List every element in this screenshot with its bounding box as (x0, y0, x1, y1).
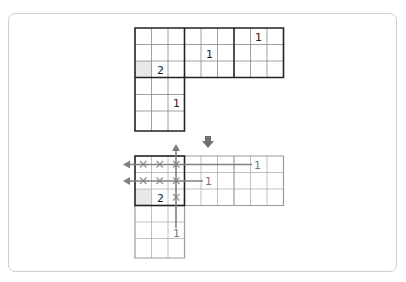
puzzle-diagram: 2 1 1 1 (0, 0, 406, 282)
bottom-grid-thin-lines (135, 156, 284, 258)
down-arrow-icon (202, 136, 214, 148)
left-arrow-icon (123, 161, 252, 169)
bottom-grid-faded-region-borders (135, 156, 284, 258)
clue-1: 1 (255, 31, 262, 44)
top-grid: 2 1 1 1 (135, 28, 284, 131)
bottom-grid: 1 1 1 2 (123, 144, 284, 258)
ray-label: 1 (173, 227, 180, 240)
clue-2: 2 (157, 192, 164, 205)
ray-label: 1 (254, 159, 261, 172)
shaded-cell (135, 61, 152, 78)
clue-1: 1 (206, 48, 213, 61)
clue-1: 1 (173, 97, 180, 110)
ray-label: 1 (205, 175, 212, 188)
shaded-cell (135, 189, 152, 206)
clue-2: 2 (157, 64, 164, 77)
